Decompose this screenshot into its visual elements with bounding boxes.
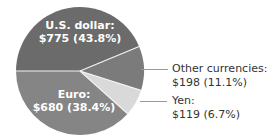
other-currencies-name: Other currencies:	[172, 62, 267, 76]
slice-label-euro: Euro: $680 (38.4%)	[29, 88, 119, 114]
slice-label-us-dollar: U.S. dollar: $775 (43.8%)	[35, 19, 125, 45]
us-dollar-value: $775 (43.8%)	[35, 32, 125, 45]
slice-label-other-currencies: Other currencies: $198 (11.1%)	[172, 62, 267, 89]
slice-label-yen: Yen: $119 (6.7%)	[172, 94, 240, 121]
yen-value: $119 (6.7%)	[172, 108, 240, 122]
yen-name: Yen:	[172, 94, 240, 108]
other-currencies-value: $198 (11.1%)	[172, 76, 267, 90]
euro-value: $680 (38.4%)	[29, 101, 119, 114]
euro-name: Euro:	[29, 88, 119, 101]
us-dollar-name: U.S. dollar:	[35, 19, 125, 32]
